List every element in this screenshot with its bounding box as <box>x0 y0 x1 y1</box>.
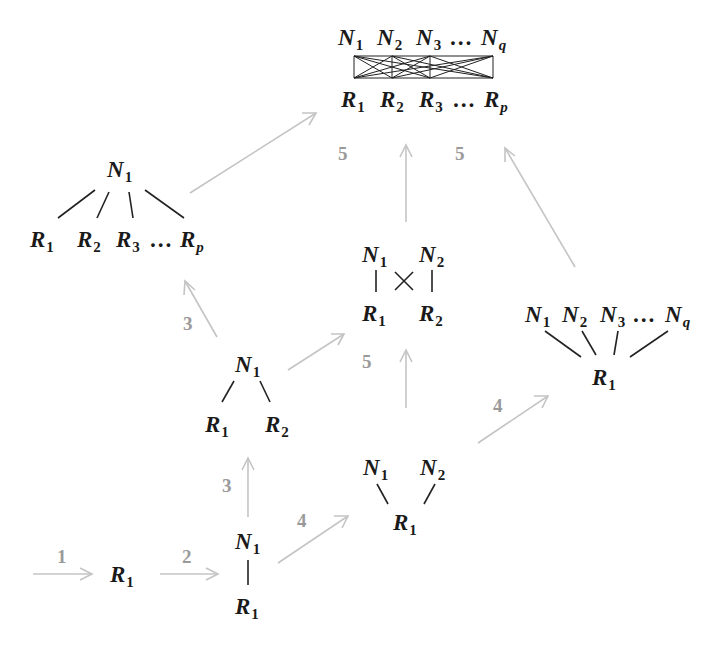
vertex-label: Nq <box>664 302 691 330</box>
vertex-label: … <box>453 87 476 112</box>
vertex-label: R1 <box>392 510 417 538</box>
node-single-R: R1 <box>109 562 134 590</box>
node-N1-R1R2: N1R1R2 <box>204 352 289 440</box>
vertex-label: N2 <box>419 455 445 483</box>
step-number-label: 5 <box>362 351 372 372</box>
vertex-label: N3 <box>415 25 441 53</box>
vertex-label: R1 <box>340 87 365 115</box>
node-Nq-R1: N1N2N3…NqR1 <box>524 302 691 393</box>
complete-bipartite-mesh <box>354 56 493 78</box>
vertex-label: N1 <box>362 455 388 483</box>
arrow-N1Rp-to-full <box>190 113 316 193</box>
step-number-label: 4 <box>297 510 307 531</box>
node-labels: R1N1R1N1R1R2N1N2R1N1N2R1R2N1N2N3…NqR1N1R… <box>29 25 691 622</box>
vertex-label: … <box>150 227 173 252</box>
node-Nq-Rp-full: N1N2N3…NqR1R2R3…Rp <box>337 25 508 115</box>
vertex-label: N3 <box>599 302 625 330</box>
step-number-label: 5 <box>455 143 465 164</box>
node-N1-Rp: N1R1R2R3…Rp <box>29 157 204 255</box>
vertex-label: R3 <box>115 227 140 255</box>
vertex-label: … <box>633 302 656 327</box>
vertex-label: Nq <box>480 25 507 53</box>
vertex-label: N1 <box>337 25 363 53</box>
vertex-label: Rp <box>483 87 508 115</box>
arrow-step-4b <box>478 396 548 443</box>
arrow-step-5a <box>288 334 344 370</box>
vertex-label: N2 <box>418 242 444 270</box>
vertex-label: R3 <box>418 87 443 115</box>
step-number-label: 3 <box>183 313 193 334</box>
step-number-label: 3 <box>222 475 232 496</box>
vertex-label: R1 <box>234 594 259 622</box>
vertex-label: N2 <box>561 302 587 330</box>
vertex-label: N1 <box>234 529 260 557</box>
vertex-label: R1 <box>361 301 386 329</box>
vertex-label: R2 <box>264 412 289 440</box>
vertex-label: R1 <box>109 562 134 590</box>
vertex-label: Rp <box>179 227 204 255</box>
hypergraph-diagram: R1N1R1N1R1R2N1N2R1N1N2R1R2N1N2N3…NqR1N1R… <box>0 0 718 648</box>
step-number-label: 2 <box>182 546 192 567</box>
step-number-label: 1 <box>57 546 67 567</box>
arrow-step-4a <box>278 516 348 563</box>
step-number-label: 4 <box>493 395 503 416</box>
vertex-label: N1 <box>524 302 550 330</box>
step-number-label: 5 <box>338 143 348 164</box>
node-N1N2-R1: N1N2R1 <box>362 455 445 538</box>
vertex-label: R2 <box>418 301 443 329</box>
arrow-step-5d <box>505 148 575 267</box>
vertex-label: N1 <box>361 242 387 270</box>
vertex-label: N2 <box>376 25 402 53</box>
vertex-label: N1 <box>234 352 260 380</box>
node-N1-R1: N1R1 <box>234 529 260 622</box>
vertex-label: R1 <box>29 227 54 255</box>
step-labels: 123435455 <box>57 143 503 567</box>
vertex-label: R2 <box>76 227 101 255</box>
vertex-label: R1 <box>204 412 229 440</box>
vertex-label: … <box>450 25 473 50</box>
vertex-label: R2 <box>379 87 404 115</box>
vertex-label: R1 <box>591 365 616 393</box>
vertex-label: N1 <box>106 157 132 185</box>
